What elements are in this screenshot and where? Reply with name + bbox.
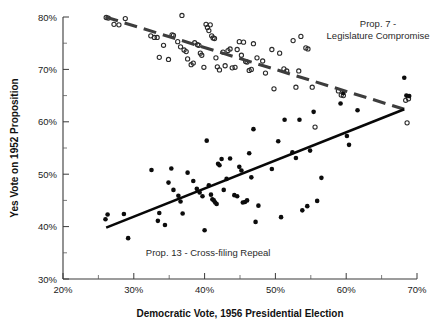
data-point-prop13 bbox=[315, 199, 320, 204]
x-tick-label: 30% bbox=[124, 284, 144, 295]
data-point-prop13 bbox=[311, 110, 316, 115]
data-point-prop13 bbox=[221, 188, 226, 193]
data-point-prop13 bbox=[347, 143, 352, 148]
data-point-prop13 bbox=[126, 236, 131, 241]
data-point-prop13 bbox=[305, 204, 310, 209]
data-point-prop13 bbox=[228, 156, 233, 161]
data-point-prop13 bbox=[157, 211, 162, 216]
y-tick-label: 30% bbox=[38, 274, 58, 285]
data-point-prop13 bbox=[276, 139, 281, 144]
data-point-prop13 bbox=[279, 215, 284, 220]
plot-canvas: 20%30%40%50%60%70% 30%40%50%60%70%80% Pr… bbox=[0, 0, 445, 333]
data-point-prop13 bbox=[270, 167, 275, 172]
y-tick-label: 40% bbox=[38, 221, 58, 232]
data-point-prop13 bbox=[245, 198, 250, 203]
data-point-prop13 bbox=[166, 180, 171, 185]
data-point-prop13 bbox=[122, 212, 127, 217]
data-point-prop13 bbox=[407, 94, 412, 99]
data-point-prop13 bbox=[338, 101, 343, 106]
prop13-label: Prop. 13 - Cross-filing Repeal bbox=[146, 247, 271, 258]
data-point-prop13 bbox=[355, 108, 360, 113]
data-point-prop13 bbox=[256, 203, 261, 208]
y-tick-label: 50% bbox=[38, 169, 58, 180]
data-point-prop13 bbox=[105, 212, 110, 217]
prop7-label: Legislature Compromise bbox=[327, 30, 430, 41]
x-tick-label: 60% bbox=[337, 284, 357, 295]
x-tick-label: 50% bbox=[266, 284, 286, 295]
data-point-prop13 bbox=[214, 202, 219, 207]
data-point-prop13 bbox=[219, 157, 224, 162]
data-point-prop13 bbox=[185, 170, 190, 175]
data-point-prop13 bbox=[217, 163, 222, 168]
data-point-prop13 bbox=[171, 188, 176, 193]
data-point-prop13 bbox=[308, 148, 313, 153]
data-point-prop13 bbox=[402, 75, 407, 80]
x-axis-title: Democratic Vote, 1956 Presidential Elect… bbox=[136, 308, 343, 319]
data-point-prop13 bbox=[253, 220, 258, 225]
x-tick-label: 70% bbox=[407, 284, 427, 295]
y-axis-title: Yes Vote on 1952 Proposition bbox=[9, 78, 20, 217]
x-tick-label: 20% bbox=[53, 284, 73, 295]
data-point-prop13 bbox=[156, 219, 161, 224]
data-point-prop13 bbox=[200, 194, 205, 199]
data-point-prop13 bbox=[169, 166, 174, 171]
x-tick-label: 40% bbox=[195, 284, 215, 295]
data-point-prop13 bbox=[103, 217, 108, 222]
data-point-prop13 bbox=[235, 194, 240, 199]
y-tick-label: 70% bbox=[38, 64, 58, 75]
data-point-prop13 bbox=[180, 211, 185, 216]
data-point-prop13 bbox=[297, 117, 302, 122]
data-point-prop13 bbox=[163, 223, 168, 228]
data-point-prop13 bbox=[149, 168, 154, 173]
data-point-prop13 bbox=[209, 192, 214, 197]
scatter-plot-figure: 20%30%40%50%60%70% 30%40%50%60%70%80% Pr… bbox=[0, 0, 445, 333]
y-tick-label: 80% bbox=[38, 12, 58, 23]
prop7-label: Prop. 7 - bbox=[360, 18, 396, 29]
data-point-prop13 bbox=[249, 175, 254, 180]
data-point-prop13 bbox=[319, 176, 324, 181]
data-point-prop13 bbox=[204, 138, 209, 143]
data-point-prop13 bbox=[282, 117, 287, 122]
data-point-prop13 bbox=[300, 208, 305, 213]
y-tick-label: 60% bbox=[38, 116, 58, 127]
data-point-prop13 bbox=[251, 127, 256, 132]
data-point-prop13 bbox=[294, 156, 299, 161]
data-point-prop13 bbox=[345, 134, 350, 139]
data-point-prop13 bbox=[247, 151, 252, 156]
data-point-prop13 bbox=[191, 179, 196, 184]
data-point-prop13 bbox=[202, 228, 207, 233]
